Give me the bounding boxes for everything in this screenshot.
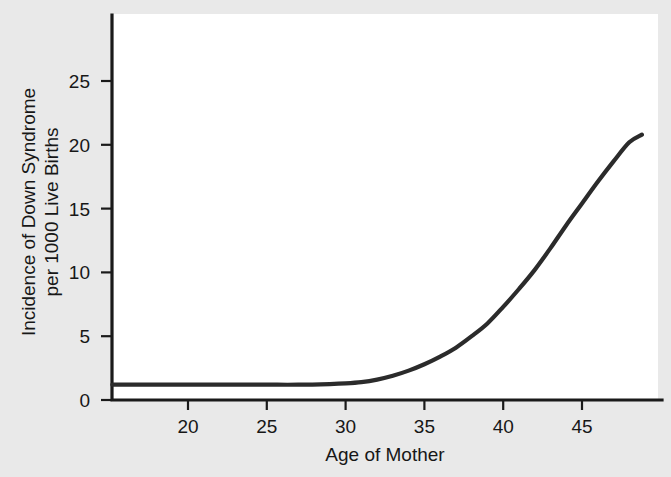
y-axis-tick-marks xyxy=(101,81,112,400)
chart-canvas: 0510152025 202530354045 Age of Mother In… xyxy=(0,0,671,477)
x-tick-label: 20 xyxy=(177,416,198,437)
y-axis-title-line2: per 1000 Live Births xyxy=(41,128,62,297)
y-tick-label: 10 xyxy=(69,262,90,283)
x-tick-label: 45 xyxy=(571,416,592,437)
y-axis-title-line1: Incidence of Down Syndrome xyxy=(18,88,39,336)
x-axis-title: Age of Mother xyxy=(325,444,445,465)
data-series-line xyxy=(112,135,642,385)
y-tick-label: 5 xyxy=(79,326,90,347)
y-tick-label: 25 xyxy=(69,71,90,92)
y-tick-label: 0 xyxy=(79,390,90,411)
y-axis-tick-labels: 0510152025 xyxy=(69,71,90,411)
x-tick-label: 30 xyxy=(335,416,356,437)
x-axis-tick-labels: 202530354045 xyxy=(177,416,592,437)
x-tick-label: 25 xyxy=(256,416,277,437)
y-tick-label: 20 xyxy=(69,135,90,156)
x-tick-label: 40 xyxy=(493,416,514,437)
chart-figure: 0510152025 202530354045 Age of Mother In… xyxy=(0,0,671,477)
x-tick-label: 35 xyxy=(414,416,435,437)
y-tick-label: 15 xyxy=(69,199,90,220)
